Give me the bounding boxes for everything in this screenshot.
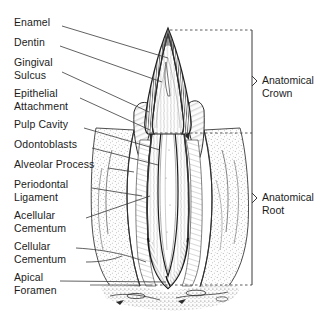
leader-cellular-cementum-2 <box>86 256 122 262</box>
leader-apical-foramen <box>60 281 166 282</box>
label-anatomical-root: Anatomical Root <box>262 191 314 217</box>
anatomical-root-bracket <box>252 133 257 285</box>
label-periodontal-ligament: Periodontal Ligament <box>14 178 68 203</box>
leader-periodontal-ligament <box>92 188 142 196</box>
leader-cellular-cementum <box>76 248 146 262</box>
tooth-crown <box>145 28 192 134</box>
label-apical-foramen: Apical Foramen <box>14 271 57 296</box>
leader-gingival-sulcus <box>62 72 149 112</box>
label-enamel: Enamel <box>14 16 50 29</box>
leader-epithelial <box>80 98 150 130</box>
leader-dentin <box>60 46 162 82</box>
anatomical-crown-bracket <box>252 30 257 133</box>
leader-alveolar-process <box>108 168 134 172</box>
reference-lines <box>90 30 257 285</box>
leader-odontoblasts <box>92 148 158 165</box>
label-alveolar-process: Alveolar Process <box>14 158 94 171</box>
basal-bone <box>100 285 240 311</box>
leader-enamel <box>62 26 168 58</box>
root-dentin <box>147 132 189 288</box>
tooth-anatomy-figure: Enamel Dentin Gingival Sulcus Epithelial… <box>0 0 335 324</box>
gingiva <box>134 101 204 160</box>
alveolar-process-bone <box>91 128 248 287</box>
label-odontoblasts: Odontoblasts <box>14 138 77 151</box>
label-anatomical-crown: Anatomical Crown <box>262 74 314 100</box>
label-gingival-sulcus: Gingival Sulcus <box>14 56 53 81</box>
periodontal-ligament <box>136 140 202 286</box>
label-cellular-cementum: Cellular Cementum <box>14 240 66 265</box>
leader-lines <box>60 26 168 282</box>
leader-acellular-cementum <box>86 196 150 218</box>
label-dentin: Dentin <box>14 36 45 49</box>
pulp-cavity <box>158 96 178 286</box>
leader-pulp-cavity <box>84 128 160 150</box>
label-epithelial-attachment: Epithelial Attachment <box>14 87 68 112</box>
label-acellular-cementum: Acellular Cementum <box>14 209 66 234</box>
label-pulp-cavity: Pulp Cavity <box>14 118 68 131</box>
